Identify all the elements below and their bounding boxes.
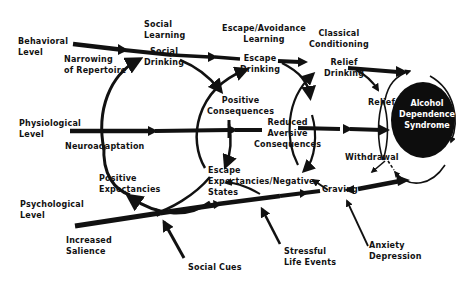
behavioral-level-label: Behavioral Level bbox=[18, 36, 68, 58]
social-cues-label: Social Cues bbox=[188, 262, 242, 273]
positive-expectancies-label: Positive Expectancies bbox=[99, 173, 161, 195]
reduced-aversive-consequences-label: Reduced Aversive Consequences bbox=[254, 117, 321, 150]
physiological-level-label: Physiological Level bbox=[19, 118, 81, 140]
classical-conditioning-label: Classical Conditioning bbox=[309, 28, 369, 50]
positive-consequences-label: Positive Consequences bbox=[207, 95, 274, 117]
stressful-life-events-label: Stressful Life Events bbox=[284, 246, 336, 268]
alcohol-dependence-syndrome-label: Alcohol Dependence Syndrome bbox=[392, 98, 462, 131]
social-learning-label: Social Learning bbox=[144, 19, 185, 41]
craving-label: Craving bbox=[322, 184, 358, 195]
escape-expectancies-negative-states-label: Escape Expectancies/Negative States bbox=[208, 165, 315, 198]
escape-drinking-label: Escape Drinking bbox=[240, 53, 280, 75]
increased-salience-label: Increased Salience bbox=[66, 235, 112, 257]
social-drinking-label: Social Drinking bbox=[144, 46, 184, 68]
psychological-level-label: Psychological Level bbox=[20, 199, 84, 221]
escape-avoidance-learning-label: Escape/Avoidance Learning bbox=[222, 23, 306, 45]
narrowing-of-repertoire-label: Narrowing of Repertoire bbox=[64, 54, 126, 76]
alcohol-dependence-diagram: Behavioral Level Physiological Level Psy… bbox=[0, 0, 470, 282]
withdrawal-label: Withdrawal bbox=[345, 152, 399, 163]
social-to-positive-arrow bbox=[180, 60, 220, 90]
escape-to-reduced-arrow bbox=[282, 63, 310, 96]
anxiety-depression-label: Anxiety Depression bbox=[369, 240, 422, 262]
relief-drinking-label: Relief Drinking bbox=[324, 57, 364, 79]
neuroadaptation-label: Neuroadaptation bbox=[65, 141, 145, 152]
